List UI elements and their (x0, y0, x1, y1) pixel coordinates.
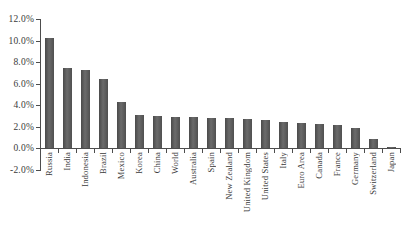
x-label-brazil: Brazil (94, 152, 112, 224)
bar-switzerland (369, 139, 378, 148)
x-label-text: Germany (350, 152, 360, 185)
x-label-canada: Canada (310, 152, 328, 224)
x-label-text: Brazil (98, 152, 108, 174)
bar-brazil (99, 79, 108, 148)
bar-spain (207, 118, 216, 148)
x-label-text: Euro Area (296, 152, 306, 189)
x-label-text: Mexico (116, 152, 126, 179)
y-tick-label: -2.0% (2, 165, 34, 176)
x-label-united-kingdom: United Kingdom (238, 152, 256, 224)
bar-india (63, 68, 72, 148)
x-label-korea: Korea (130, 152, 148, 224)
bar-euro-area (297, 123, 306, 148)
x-label-mexico: Mexico (112, 152, 130, 224)
y-tick (36, 105, 40, 106)
x-label-new-zealand: New Zealand (220, 152, 238, 224)
x-label-china: China (148, 152, 166, 224)
x-label-russia: Russia (40, 152, 58, 224)
y-tick-label: 10.0% (2, 36, 34, 47)
x-label-text: Switzerland (368, 152, 378, 195)
y-tick-label: 0.0% (2, 143, 34, 154)
bar-russia (45, 38, 54, 148)
x-label-text: Indonesia (80, 152, 90, 187)
x-label-euro-area: Euro Area (292, 152, 310, 224)
x-label-text: India (62, 152, 72, 170)
y-tick-label: 4.0% (2, 100, 34, 111)
x-label-text: United Kingdom (242, 152, 252, 212)
bar-italy (279, 122, 288, 148)
x-label-text: United States (260, 152, 270, 200)
bar-japan (387, 147, 396, 148)
x-label-australia: Australia (184, 152, 202, 224)
x-label-world: World (166, 152, 184, 224)
bar-korea (135, 115, 144, 148)
x-label-text: Spain (206, 152, 216, 172)
x-label-text: France (332, 152, 342, 176)
bar-canada (315, 124, 324, 148)
x-label-switzerland: Switzerland (364, 152, 382, 224)
x-label-text: Japan (386, 152, 396, 172)
bar-mexico (117, 102, 126, 148)
x-label-france: France (328, 152, 346, 224)
y-tick (36, 127, 40, 128)
x-label-germany: Germany (346, 152, 364, 224)
y-tick (36, 84, 40, 85)
x-label-text: Russia (44, 152, 54, 176)
bar-australia (189, 117, 198, 148)
bar-new-zealand (225, 118, 234, 148)
bar-france (333, 125, 342, 148)
x-label-text: New Zealand (224, 152, 234, 200)
x-label-united-states: United States (256, 152, 274, 224)
bar-chart-figure: 12.0%10.0%8.0%6.0%4.0%2.0%0.0%-2.0% Russ… (0, 0, 411, 233)
y-tick-label: 8.0% (2, 57, 34, 68)
x-label-text: Australia (188, 152, 198, 185)
x-label-text: Italy (278, 152, 288, 169)
x-label-text: World (170, 152, 180, 174)
bar-china (153, 116, 162, 148)
y-tick (36, 62, 40, 63)
bar-united-states (261, 120, 270, 148)
bar-world (171, 117, 180, 148)
x-label-india: India (58, 152, 76, 224)
y-tick-label: 12.0% (2, 14, 34, 25)
bar-germany (351, 128, 360, 148)
x-label-italy: Italy (274, 152, 292, 224)
y-tick (36, 19, 40, 20)
bar-indonesia (81, 70, 90, 148)
x-label-japan: Japan (382, 152, 400, 224)
x-label-text: Canada (314, 152, 324, 179)
x-label-text: Korea (134, 152, 144, 174)
y-tick (36, 41, 40, 42)
x-label-indonesia: Indonesia (76, 152, 94, 224)
x-label-text: China (152, 152, 162, 173)
x-tick (400, 149, 401, 153)
bar-united-kingdom (243, 119, 252, 148)
y-tick-label: 6.0% (2, 79, 34, 90)
y-tick-label: 2.0% (2, 122, 34, 133)
x-label-spain: Spain (202, 152, 220, 224)
